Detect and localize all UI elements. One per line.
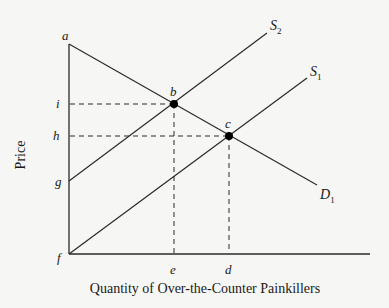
y-axis-title: Price <box>13 141 28 170</box>
label-h: h <box>53 128 60 143</box>
demand-curve-d1 <box>69 44 317 185</box>
label-s2: S2 <box>270 18 282 36</box>
label-i: i <box>56 96 60 111</box>
supply-demand-diagram: a b c d e f g h i S2 S1 D1 Price Quantit… <box>0 0 389 308</box>
label-f: f <box>57 250 63 265</box>
equilibrium-point-c <box>225 132 233 140</box>
x-axis-title: Quantity of Over-the-Counter Painkillers <box>90 281 320 296</box>
label-s1: S1 <box>310 64 322 82</box>
supply-curve-s2 <box>69 33 267 181</box>
label-b: b <box>170 84 177 99</box>
equilibrium-point-b <box>170 100 178 108</box>
label-d1: D1 <box>319 187 335 205</box>
label-a: a <box>62 28 69 43</box>
supply-curve-s1 <box>69 78 307 254</box>
label-c: c <box>225 116 231 131</box>
label-g: g <box>55 174 62 189</box>
label-d: d <box>225 262 232 277</box>
label-e: e <box>170 262 176 277</box>
